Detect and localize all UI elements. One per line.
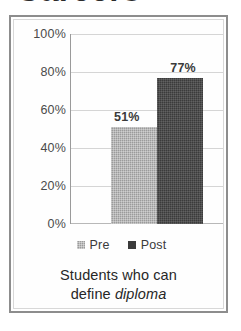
figure-inner-frame: 100% 80% 60% 40% 20% 0% bbox=[13, 19, 224, 309]
legend-label-pre: Pre bbox=[90, 238, 110, 252]
caption-line-1: Students who can bbox=[22, 266, 215, 285]
bar-chart: 100% 80% 60% 40% 20% 0% bbox=[14, 20, 229, 235]
caption-line-2-prefix: define bbox=[71, 286, 115, 302]
bar-pre[interactable]: 51% bbox=[111, 127, 157, 224]
bar-post[interactable]: 77% bbox=[157, 78, 203, 224]
page-heading-cutoff: Careers bbox=[16, 0, 141, 6]
caption-emphasis-term: diploma bbox=[115, 286, 166, 302]
y-tick-label-100: 100% bbox=[33, 27, 66, 41]
y-tick-label-60: 60% bbox=[40, 103, 66, 117]
plot-area: 51% 77% bbox=[70, 34, 223, 224]
legend-item-post[interactable]: Post bbox=[128, 238, 167, 252]
chart-legend: Pre Post bbox=[14, 238, 229, 252]
legend-swatch-post-icon bbox=[128, 241, 136, 249]
y-axis-labels: 100% 80% 60% 40% 20% 0% bbox=[14, 20, 70, 235]
bar-group: 51% 77% bbox=[71, 34, 223, 224]
legend-label-post: Post bbox=[141, 238, 167, 252]
bar-value-pre: 51% bbox=[114, 110, 140, 124]
y-tick-label-20: 20% bbox=[40, 179, 66, 193]
figure-page: Careers 100% 80% 60% 40% 20% 0% bbox=[0, 0, 241, 331]
y-tick-label-40: 40% bbox=[40, 141, 66, 155]
figure-caption: Students who can define diploma bbox=[22, 266, 215, 304]
legend-item-pre[interactable]: Pre bbox=[77, 238, 110, 252]
y-tick-label-0: 0% bbox=[48, 217, 66, 231]
caption-line-2: define diploma bbox=[22, 285, 215, 304]
figure-frame: 100% 80% 60% 40% 20% 0% bbox=[9, 15, 228, 313]
legend-swatch-pre-icon bbox=[77, 241, 85, 249]
bar-value-post: 77% bbox=[170, 61, 196, 75]
y-tick-label-80: 80% bbox=[40, 65, 66, 79]
